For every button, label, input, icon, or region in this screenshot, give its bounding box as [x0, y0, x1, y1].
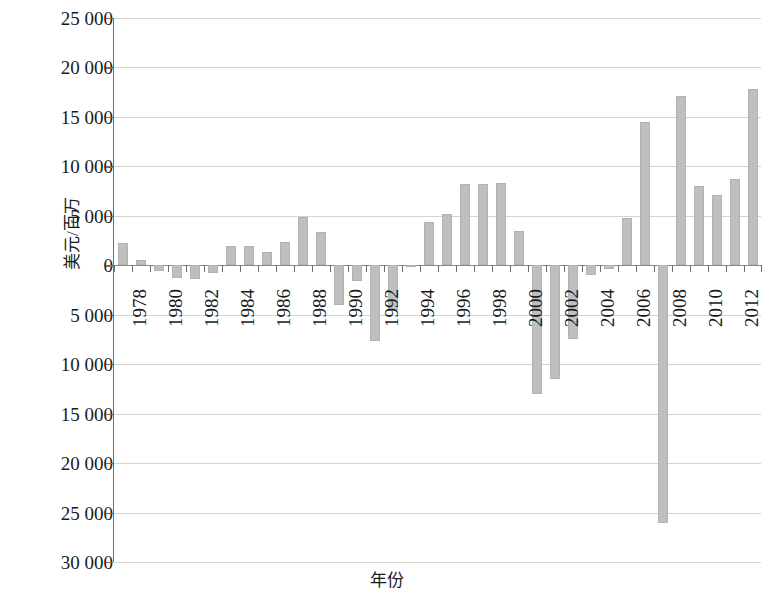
- plot-area: 1978198019821984198619881990199219941996…: [113, 18, 761, 562]
- x-axis-tick-label: 1992: [382, 289, 401, 327]
- x-axis-tick-mark: [582, 265, 583, 272]
- x-axis-tick-mark: [744, 265, 745, 272]
- x-axis-tick-label: 1996: [454, 289, 473, 327]
- gridline: [114, 216, 761, 217]
- gridline: [114, 18, 761, 19]
- y-axis-tick-label: 15 000: [21, 107, 113, 126]
- x-axis-tick-label: 1982: [202, 289, 221, 327]
- bar: [226, 246, 236, 265]
- y-axis-tick-mark: [106, 67, 113, 68]
- bar: [730, 179, 740, 265]
- y-axis-tick-label: 0: [21, 256, 113, 275]
- y-axis-tick-mark: [106, 513, 113, 514]
- y-axis-tick-label: 10 000: [21, 157, 113, 176]
- bar: [676, 96, 686, 265]
- x-axis-tick-mark: [222, 265, 223, 272]
- y-axis-tick-label: 5 000: [21, 206, 113, 225]
- bar-chart: 美元/百万 25 00020 00015 00010 0005 00005 00…: [0, 0, 773, 601]
- x-axis-tick-mark: [186, 265, 187, 272]
- y-axis-tick-label: 20 000: [21, 58, 113, 77]
- x-axis-tick-mark: [420, 265, 421, 272]
- x-axis-tick-mark: [438, 265, 439, 272]
- x-axis-tick-label: 1988: [310, 289, 329, 327]
- x-axis-tick-mark: [690, 265, 691, 272]
- bar: [280, 242, 290, 266]
- x-axis-tick-mark: [528, 265, 529, 272]
- bar: [136, 260, 146, 265]
- bar: [172, 265, 182, 278]
- bar: [406, 265, 416, 267]
- y-axis-tick-label: 5 000: [21, 305, 113, 324]
- bar: [712, 195, 722, 265]
- x-axis-tick-mark: [474, 265, 475, 272]
- x-axis-tick-mark: [384, 265, 385, 272]
- gridline: [114, 117, 761, 118]
- y-axis-tick-mark: [106, 463, 113, 464]
- bar: [244, 246, 254, 265]
- x-axis-tick-mark: [204, 265, 205, 272]
- x-axis-tick-mark: [132, 265, 133, 272]
- x-axis-tick-mark: [240, 265, 241, 272]
- bar: [694, 186, 704, 265]
- x-axis-tick-mark: [294, 265, 295, 272]
- y-axis-tick-label: 10 000: [21, 355, 113, 374]
- x-axis-tick-mark: [168, 265, 169, 272]
- x-axis-tick-mark: [761, 265, 762, 272]
- y-axis-tick-label: 25 000: [21, 503, 113, 522]
- x-axis-tick-mark: [492, 265, 493, 272]
- y-axis-tick-mark: [106, 364, 113, 365]
- x-axis-tick-label: 1980: [166, 289, 185, 327]
- x-axis-tick-mark: [276, 265, 277, 272]
- y-axis-tick-mark: [106, 216, 113, 217]
- x-axis-tick-label: 2010: [706, 289, 725, 327]
- x-axis-tick-mark: [258, 265, 259, 272]
- bar: [622, 218, 632, 265]
- x-axis-tick-mark: [150, 265, 151, 272]
- x-axis-tick-mark: [726, 265, 727, 272]
- x-axis-title: 年份: [0, 566, 773, 591]
- bar: [658, 265, 668, 523]
- bar: [262, 252, 272, 265]
- y-axis-tick-label: 15 000: [21, 404, 113, 423]
- bar: [532, 265, 542, 394]
- gridline: [114, 562, 761, 563]
- x-axis-tick-label: 1998: [490, 289, 509, 327]
- x-axis-tick-label: 1986: [274, 289, 293, 327]
- x-axis-tick-mark: [348, 265, 349, 272]
- x-axis-tick-mark: [564, 265, 565, 272]
- bar: [370, 265, 380, 341]
- gridline: [114, 67, 761, 68]
- plot-inner: 1978198019821984198619881990199219941996…: [114, 18, 761, 562]
- y-axis-tick-label: 25 000: [21, 9, 113, 28]
- bar: [190, 265, 200, 279]
- x-axis-tick-mark: [402, 265, 403, 272]
- bar: [118, 243, 128, 266]
- x-axis-tick-label: 2006: [634, 289, 653, 327]
- bar: [604, 265, 614, 269]
- bar: [424, 222, 434, 266]
- x-axis-tick-mark: [636, 265, 637, 272]
- x-axis-tick-mark: [330, 265, 331, 272]
- bar: [442, 214, 452, 265]
- x-axis-tick-mark: [456, 265, 457, 272]
- x-axis-tick-mark: [510, 265, 511, 272]
- y-axis-tick-labels: 25 00020 00015 00010 0005 00005 00010 00…: [0, 0, 113, 601]
- y-axis-tick-mark: [106, 117, 113, 118]
- y-axis-tick-mark: [106, 18, 113, 19]
- bar: [514, 231, 524, 266]
- x-axis-tick-label: 2002: [562, 289, 581, 327]
- bar: [316, 232, 326, 266]
- y-axis-tick-mark: [106, 166, 113, 167]
- bar: [352, 265, 362, 281]
- x-axis-tick-mark: [708, 265, 709, 272]
- bar: [748, 89, 758, 265]
- y-axis-tick-mark: [106, 414, 113, 415]
- x-axis-tick-mark: [546, 265, 547, 272]
- bar: [334, 265, 344, 305]
- x-axis-tick-mark: [600, 265, 601, 272]
- bar: [496, 183, 506, 265]
- bar: [640, 122, 650, 265]
- x-axis-tick-label: 1994: [418, 289, 437, 327]
- x-axis-tick-mark: [672, 265, 673, 272]
- x-axis-tick-label: 2000: [526, 289, 545, 327]
